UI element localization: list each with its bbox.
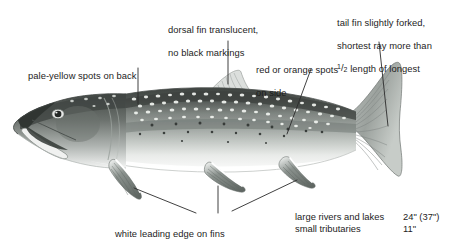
- callout-side-spots-line1: red or orange spots: [256, 64, 338, 76]
- fraction-denominator: 2: [344, 66, 348, 73]
- callout-tail-fin-line1: tail fin slightly forked,: [337, 17, 432, 29]
- fish-eye: [52, 109, 64, 119]
- callout-back-spots: pale-yellow spots on back: [28, 58, 137, 81]
- callout-tail-fin: tail fin slightly forked, shortest ray m…: [337, 5, 432, 86]
- fish-head: [14, 94, 127, 172]
- callout-side-spots: red or orange spots on side: [256, 52, 338, 110]
- callout-back-spots-text: pale-yellow spots on back: [28, 70, 137, 81]
- callout-dorsal-fin: dorsal fin translucent, no black marking…: [168, 12, 258, 70]
- callout-tail-fin-line3-suffix: length of longest: [348, 63, 420, 74]
- fish-identification-figure: pale-yellow spots on back dorsal fin tra…: [0, 0, 455, 251]
- size-habitat: small tributaries: [295, 223, 403, 235]
- callout-side-spots-line2: on side: [256, 87, 338, 99]
- size-length: 24" (37"): [403, 211, 439, 223]
- size-table-row: large rivers and lakes 24" (37"): [295, 211, 439, 223]
- size-table: large rivers and lakes 24" (37") small t…: [295, 211, 439, 235]
- callout-fin-edges-text: white leading edge on fins: [115, 228, 225, 239]
- callout-fin-edges: white leading edge on fins: [115, 216, 225, 239]
- callout-tail-fin-line2: shortest ray more than: [337, 40, 432, 52]
- size-table-row: small tributaries 11": [295, 223, 439, 235]
- size-length: 11": [403, 223, 416, 235]
- callout-tail-fin-line3: 1/2 length of longest: [337, 63, 432, 75]
- callout-dorsal-fin-line2: no black markings: [168, 47, 258, 59]
- fraction-one-half: 1/2: [337, 62, 348, 74]
- size-habitat: large rivers and lakes: [295, 211, 403, 223]
- callout-dorsal-fin-line1: dorsal fin translucent,: [168, 24, 258, 36]
